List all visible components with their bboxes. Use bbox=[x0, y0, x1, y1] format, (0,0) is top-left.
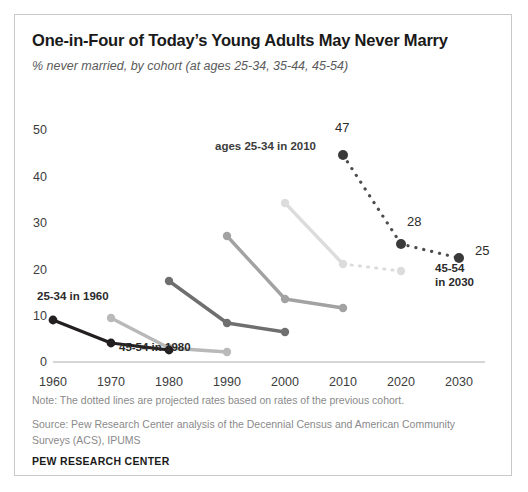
annotation-cohort-2030-line1: 45-54 bbox=[435, 262, 464, 274]
chart-note: Note: The dotted lines are projected rat… bbox=[32, 393, 500, 408]
chart-source: Source: Pew Research Center analysis of … bbox=[32, 417, 494, 449]
chart-card: One-in-Four of Today’s Young Adults May … bbox=[14, 14, 512, 476]
data-label-2030: 25 bbox=[475, 243, 489, 258]
series-cohort-2000 bbox=[281, 199, 405, 275]
annotation-cohort-2030-line2: in 2030 bbox=[435, 276, 474, 288]
annotation-cohort-1980: 45-54 in 1980 bbox=[119, 341, 191, 353]
annotation-cohort-2010: ages 25-34 in 2010 bbox=[215, 140, 316, 152]
series-cohort-2010-projected bbox=[338, 150, 464, 263]
data-label-2020: 28 bbox=[407, 214, 421, 229]
annotation-cohort-1960: 25-34 in 1960 bbox=[37, 290, 109, 302]
data-label-2010: 47 bbox=[335, 120, 349, 135]
series-cohort-1990 bbox=[223, 232, 347, 312]
publisher-footer: PEW RESEARCH CENTER bbox=[32, 455, 170, 467]
